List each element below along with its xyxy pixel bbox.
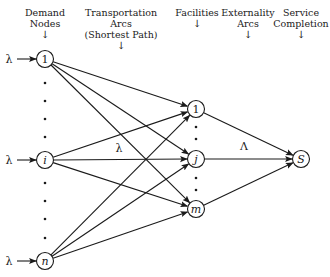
network-diagram: 1in1jmS λλλλΛ — [0, 0, 330, 277]
transport-arc-label: λ — [116, 142, 123, 155]
transportation-arc — [52, 164, 188, 256]
transportation-arc — [52, 64, 188, 154]
ellipsis-dot — [44, 182, 47, 185]
ellipsis-dot — [44, 237, 47, 240]
transportation-arc — [51, 115, 190, 255]
ellipsis-dot — [195, 138, 198, 141]
ellipsis-dot — [44, 100, 47, 103]
facility-node-f1: 1 — [188, 101, 205, 118]
ellipsis-dot — [44, 118, 47, 121]
ellipsis-dots — [44, 82, 198, 240]
node-label: m — [191, 203, 201, 216]
ellipsis-dot — [44, 82, 47, 85]
ellipsis-dot — [195, 177, 198, 180]
externality-arc — [204, 113, 293, 155]
transportation-arc — [53, 163, 187, 207]
ellipsis-dot — [195, 126, 198, 129]
ellipsis-dot — [44, 136, 47, 139]
facility-node-fm: m — [188, 201, 205, 218]
demand-node-dn: n — [37, 253, 54, 270]
node-label: 1 — [42, 53, 49, 66]
transportation-arc — [51, 65, 190, 203]
arrival-rate-label: λ — [6, 53, 13, 66]
externality-arc — [204, 163, 293, 205]
demand-node-d1: 1 — [37, 51, 54, 68]
ellipsis-dot — [44, 200, 47, 203]
arcs-layer — [17, 59, 293, 261]
node-label: 1 — [193, 103, 200, 116]
transportation-arc — [53, 159, 187, 160]
externality-arc-label: Λ — [239, 140, 249, 153]
demand-node-di: i — [37, 152, 54, 169]
transportation-arc — [53, 62, 187, 106]
service-completion-node-S: S — [293, 151, 310, 168]
ellipsis-dot — [44, 218, 47, 221]
ellipsis-dot — [195, 189, 198, 192]
facility-node-fj: j — [188, 151, 205, 168]
node-label: n — [41, 255, 48, 268]
transportation-arc — [53, 212, 187, 258]
arrival-rate-label: λ — [6, 255, 13, 268]
node-label: i — [43, 154, 47, 167]
arrival-rate-label: λ — [6, 154, 13, 167]
node-label: S — [297, 153, 305, 166]
